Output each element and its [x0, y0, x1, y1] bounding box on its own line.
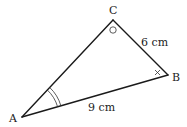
- vertex-label-b: B: [172, 71, 180, 84]
- vertex-label-c: C: [109, 4, 117, 17]
- side-label-ab: 9 cm: [88, 101, 116, 114]
- angle-c-circle-icon: [110, 27, 116, 33]
- side-label-cb: 6 cm: [141, 36, 169, 49]
- angle-b-cross-icon: [155, 70, 160, 75]
- triangle-diagram: C B A 6 cm 9 cm: [0, 0, 187, 127]
- vertex-label-a: A: [8, 112, 18, 125]
- angle-a-double-arc-icon: [47, 88, 61, 107]
